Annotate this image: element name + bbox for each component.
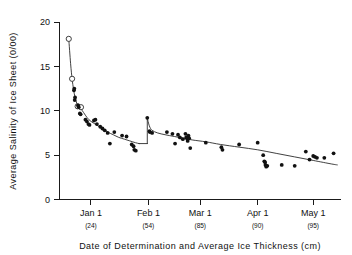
chart-figure: 05101520 Average Salinity of Ice Sheet (… <box>0 0 352 255</box>
y-tick-label: 5 <box>45 150 50 160</box>
data-point-filled <box>188 146 192 150</box>
data-point-filled <box>181 137 185 141</box>
x-axis-group: Jan 1(24)Feb 1(54)Mar 1(85)Apr 1(90)May … <box>60 200 342 252</box>
data-point-group <box>66 36 335 168</box>
data-point-filled <box>112 130 116 134</box>
x-tick-sublabel: (85) <box>194 222 206 230</box>
y-tick-label: 0 <box>45 195 50 205</box>
data-point-filled <box>280 163 284 167</box>
data-point-filled <box>315 156 319 160</box>
data-point-filled <box>120 134 124 138</box>
data-point-filled <box>256 141 260 145</box>
data-point-filled <box>187 136 191 140</box>
data-point-filled <box>132 144 136 148</box>
y-tick-label: 15 <box>40 62 50 72</box>
data-point-filled <box>125 135 129 139</box>
x-tick-label: May 1 <box>301 208 326 218</box>
x-tick-label: Apr 1 <box>247 208 269 218</box>
data-point-filled <box>265 164 269 168</box>
data-point-filled <box>108 142 112 146</box>
data-point-filled <box>221 148 225 152</box>
y-axis-ticks: 05101520 <box>40 17 60 205</box>
data-point-filled <box>308 158 312 162</box>
data-point-filled <box>150 131 154 135</box>
data-point-filled <box>171 132 175 136</box>
data-point-filled <box>332 151 336 155</box>
salinity-scatter-plot: 05101520 Average Salinity of Ice Sheet (… <box>0 0 352 255</box>
data-point-filled <box>73 98 77 102</box>
data-point-filled <box>261 153 265 157</box>
x-tick-label: Jan 1 <box>80 208 102 218</box>
y-axis-group: 05101520 Average Salinity of Ice Sheet (… <box>8 17 60 205</box>
data-point-filled <box>237 143 241 147</box>
data-point-filled <box>72 88 76 92</box>
x-axis-ticks: Jan 1(24)Feb 1(54)Mar 1(85)Apr 1(90)May … <box>80 200 326 231</box>
fit-curve-group <box>69 39 338 165</box>
data-point-open <box>66 36 71 41</box>
data-point-filled <box>77 105 81 109</box>
x-axis-title: Date of Determination and Average Ice Th… <box>79 241 321 251</box>
x-tick-sublabel: (95) <box>307 222 319 230</box>
data-point-filled <box>145 116 149 120</box>
x-tick-sublabel: (24) <box>85 222 97 230</box>
data-point-filled <box>165 130 169 134</box>
data-point-filled <box>79 112 83 116</box>
data-point-filled <box>304 150 308 154</box>
y-tick-label: 20 <box>40 17 50 27</box>
data-point-filled <box>94 118 98 122</box>
y-axis-title: Average Salinity of Ice Sheet (0/00) <box>8 32 18 190</box>
x-tick-label: Mar 1 <box>189 208 212 218</box>
data-point-filled <box>293 164 297 168</box>
data-point-filled <box>322 156 326 160</box>
data-point-filled <box>103 128 107 132</box>
data-point-filled <box>173 142 177 146</box>
data-point-filled <box>134 149 138 153</box>
x-tick-label: Feb 1 <box>137 208 160 218</box>
data-point-open <box>69 76 74 81</box>
data-point-filled <box>106 131 110 135</box>
data-point-filled <box>88 123 92 127</box>
data-point-filled <box>95 122 99 126</box>
y-tick-label: 10 <box>40 106 50 116</box>
x-tick-sublabel: (90) <box>252 222 264 230</box>
data-point-filled <box>204 141 208 145</box>
x-tick-sublabel: (54) <box>143 222 155 230</box>
